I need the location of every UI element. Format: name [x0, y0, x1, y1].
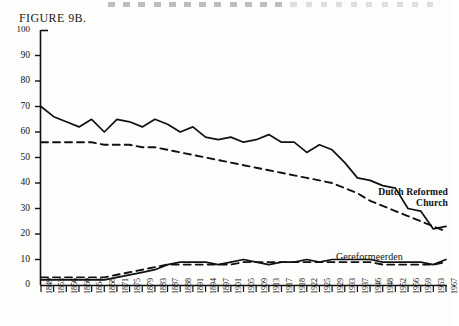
x-tick-label: 1933: [348, 278, 357, 294]
x-tick-label: 1871: [121, 278, 130, 294]
x-tick-label: 1856: [70, 278, 79, 294]
x-tick-label: 1853: [57, 278, 66, 294]
series-line-dutch-reformed-church: [41, 107, 446, 229]
y-axis-ticks: [35, 31, 48, 260]
y-tick-label: 20: [8, 228, 30, 238]
x-tick-label: 1948: [386, 278, 395, 294]
x-tick-label: 1883: [159, 278, 168, 294]
x-tick-label: 1929: [336, 278, 345, 294]
x-tick-label: 1879: [146, 278, 155, 294]
x-tick-label: 1952: [399, 278, 408, 294]
x-tick-label: 1913: [272, 278, 281, 294]
x-tick-label: 1946: [374, 278, 383, 294]
x-tick-label: 1864: [95, 278, 104, 294]
y-tick-label: 70: [8, 101, 30, 111]
y-tick-label: 40: [8, 177, 30, 187]
x-tick-label: 1963: [437, 278, 446, 294]
y-tick-label: 10: [8, 254, 30, 264]
x-tick-label: 1905: [247, 278, 256, 294]
x-tick-label: 1891: [196, 278, 205, 294]
x-tick-label: 1922: [310, 278, 319, 294]
x-tick-label: 1918: [298, 278, 307, 294]
x-tick-label: 1967: [450, 278, 459, 294]
x-tick-label: 1894: [209, 278, 218, 294]
y-tick-label: 50: [8, 152, 30, 162]
x-tick-label: 1937: [361, 278, 370, 294]
x-tick-label: 1868: [108, 278, 117, 294]
x-tick-label: 1959: [424, 278, 433, 294]
annotation-dutch-reformed-church: Dutch Reformed Church: [348, 186, 448, 208]
x-tick-label: 1901: [234, 278, 243, 294]
x-tick-label: 1917: [285, 278, 294, 294]
x-tick-label: 1860: [83, 278, 92, 294]
x-tick-label: 1888: [184, 278, 193, 294]
x-tick-label: 1849: [45, 278, 54, 294]
annotation-gereformeerden: Gereformeerden: [336, 251, 403, 263]
x-tick-label: 1875: [133, 278, 142, 294]
annotation-dutch-reformed-line2: Church: [416, 197, 448, 208]
series-line-gereformeerden-trend: [41, 262, 446, 277]
y-tick-label: 30: [8, 203, 30, 213]
x-tick-label: 1956: [412, 278, 421, 294]
x-tick-label: 1909: [260, 278, 269, 294]
y-tick-label: 0: [8, 279, 30, 289]
y-tick-label: 100: [8, 24, 30, 34]
x-tick-label: 1897: [222, 278, 231, 294]
x-tick-label: 1925: [323, 278, 332, 294]
annotation-dutch-reformed-line1: Dutch Reformed: [378, 186, 448, 197]
x-tick-label: 1887: [171, 278, 180, 294]
y-tick-label: 60: [8, 126, 30, 136]
y-tick-label: 90: [8, 50, 30, 60]
y-tick-label: 80: [8, 75, 30, 85]
